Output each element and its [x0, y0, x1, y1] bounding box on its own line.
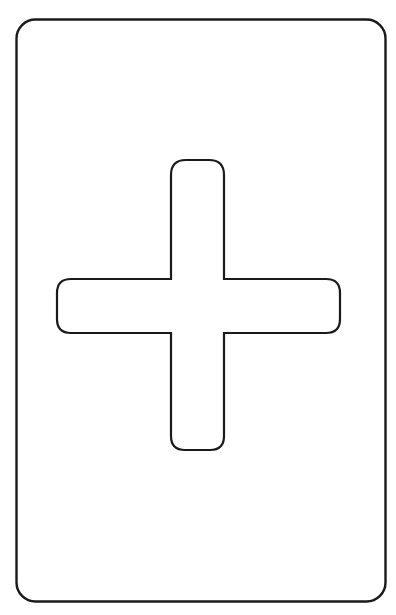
plus-card-graphic [0, 0, 396, 615]
plus-card-canvas [0, 0, 396, 615]
